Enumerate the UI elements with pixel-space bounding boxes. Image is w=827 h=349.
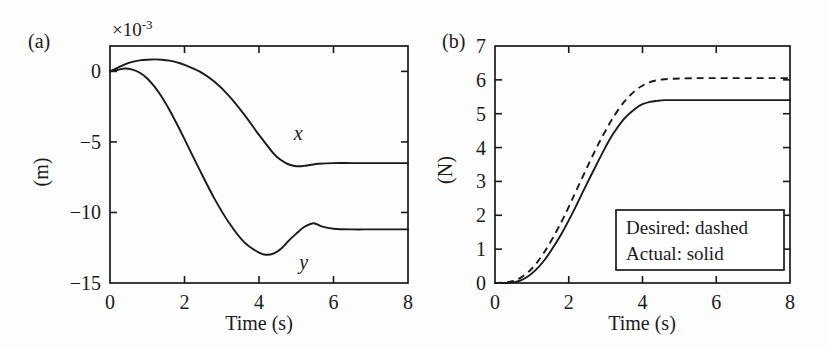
panel-b-x-axis-title: Time (s) bbox=[608, 312, 676, 335]
panel-b-y-tick-labels: 01234567 bbox=[476, 35, 486, 294]
panel-a-x-axis-title: Time (s) bbox=[225, 312, 293, 335]
x-tick-label: 6 bbox=[711, 291, 721, 313]
y-tick-label: 1 bbox=[476, 238, 486, 260]
panel-a-series-y-line bbox=[110, 69, 408, 255]
panel-a-x-tick-labels: 02468 bbox=[105, 291, 413, 313]
panel-a-y-axis-title: (m) bbox=[30, 158, 53, 187]
curve-label-x: x bbox=[293, 122, 303, 144]
panel-b: (b) 02468 01234567 Desired: dashed Actua… bbox=[420, 0, 827, 349]
x-tick-label: 6 bbox=[329, 291, 339, 313]
panel-b-label: (b) bbox=[442, 30, 465, 53]
curve-label-y: y bbox=[297, 251, 308, 274]
panel-b-x-tick-labels: 02468 bbox=[490, 291, 795, 313]
panel-a-curve-labels: xy bbox=[293, 122, 309, 274]
y-tick-label: 5 bbox=[476, 103, 486, 125]
y-tick-label: 2 bbox=[476, 204, 486, 226]
x-tick-label: 2 bbox=[564, 291, 574, 313]
y-tick-label: 6 bbox=[476, 69, 486, 91]
y-tick-label: 3 bbox=[476, 170, 486, 192]
x-tick-label: 8 bbox=[403, 291, 413, 313]
panel-a: (a) ×10-3 02468 0−5−10−15 xy Time (s) (m… bbox=[0, 0, 420, 349]
figure-container: (a) ×10-3 02468 0−5−10−15 xy Time (s) (m… bbox=[0, 0, 827, 349]
x-tick-label: 0 bbox=[490, 291, 500, 313]
y-tick-label: 0 bbox=[91, 60, 101, 82]
y-tick-label: 0 bbox=[476, 272, 486, 294]
x-tick-label: 2 bbox=[180, 291, 190, 313]
panel-a-y-tick-labels: 0−5−10−15 bbox=[70, 60, 101, 294]
y-tick-label: −5 bbox=[80, 131, 101, 153]
x-tick-label: 8 bbox=[785, 291, 795, 313]
panel-b-legend: Desired: dashed Actual: solid bbox=[616, 210, 784, 270]
panel-a-y-ticks bbox=[110, 71, 408, 212]
panel-a-label: (a) bbox=[28, 30, 50, 53]
panel-a-exponent-multiplier: ×10-3 bbox=[112, 17, 153, 40]
y-tick-label: 4 bbox=[476, 137, 486, 159]
x-tick-label: 4 bbox=[638, 291, 648, 313]
panel-a-series-x-line bbox=[110, 59, 408, 166]
y-tick-label: −10 bbox=[70, 201, 101, 223]
x-tick-label: 0 bbox=[105, 291, 115, 313]
x-tick-label: 4 bbox=[254, 291, 264, 313]
panel-a-svg: (a) ×10-3 02468 0−5−10−15 xy Time (s) (m… bbox=[0, 0, 420, 349]
panel-a-plot-frame bbox=[110, 46, 408, 283]
panel-b-legend-item-actual: Actual: solid bbox=[626, 243, 724, 264]
y-tick-label: −15 bbox=[70, 272, 101, 294]
panel-b-svg: (b) 02468 01234567 Desired: dashed Actua… bbox=[420, 0, 827, 349]
y-tick-label: 7 bbox=[476, 35, 486, 57]
panel-b-y-axis-title: (N) bbox=[434, 156, 457, 184]
panel-b-legend-item-desired: Desired: dashed bbox=[626, 217, 748, 238]
